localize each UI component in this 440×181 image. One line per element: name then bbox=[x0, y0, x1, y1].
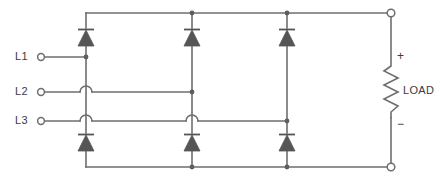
label-phase-l2: L2 bbox=[15, 86, 28, 97]
terminal-l3-icon[interactable] bbox=[38, 118, 45, 125]
junction-l3-branch3 bbox=[285, 119, 290, 124]
diode-upper-1 bbox=[78, 30, 94, 47]
output-negative-terminal-icon[interactable] bbox=[387, 163, 395, 171]
input-terminal-group bbox=[38, 54, 45, 125]
label-output-negative-sign: − bbox=[397, 118, 404, 130]
terminal-l1-icon[interactable] bbox=[38, 54, 45, 61]
diode-upper-2-anode-triangle bbox=[184, 30, 200, 46]
label-load: LOAD bbox=[403, 85, 434, 96]
diode-lower-3-anode-triangle bbox=[279, 135, 295, 151]
diode-upper-1-anode-triangle bbox=[78, 30, 94, 46]
junction-top-branch2 bbox=[190, 11, 195, 16]
junction-l1-branch1 bbox=[84, 55, 89, 60]
junction-bottom-branch3 bbox=[285, 165, 290, 170]
diode-upper-3 bbox=[279, 30, 295, 47]
label-phase-l1: L1 bbox=[15, 51, 28, 62]
terminal-l2-icon[interactable] bbox=[38, 89, 45, 96]
output-section bbox=[384, 9, 398, 171]
circuit-diagram: L1 L2 L3 LOAD + − bbox=[0, 0, 440, 181]
diode-lower-2 bbox=[184, 135, 200, 152]
rail-group bbox=[86, 13, 391, 167]
diode-upper-3-anode-triangle bbox=[279, 30, 295, 46]
circuit-schematic-canvas bbox=[0, 0, 440, 181]
junction-bottom-branch2 bbox=[190, 165, 195, 170]
diode-lower-3 bbox=[279, 135, 295, 152]
junction-l2-branch2 bbox=[190, 90, 195, 95]
diode-lower-1 bbox=[78, 135, 94, 152]
output-positive-terminal-icon[interactable] bbox=[387, 9, 395, 17]
junction-top-branch3 bbox=[285, 11, 290, 16]
diode-lower-1-anode-triangle bbox=[78, 135, 94, 151]
diode-lower-2-anode-triangle bbox=[184, 135, 200, 151]
diode-upper-2 bbox=[184, 30, 200, 47]
label-phase-l3: L3 bbox=[15, 115, 28, 126]
label-output-positive-sign: + bbox=[397, 50, 404, 62]
load-resistor-zigzag bbox=[384, 66, 398, 118]
